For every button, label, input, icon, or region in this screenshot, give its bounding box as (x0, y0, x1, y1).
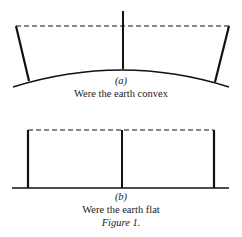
left-pole (16, 26, 29, 81)
panel-b-flat-earth (12, 130, 229, 188)
panel-b-label: (b) (0, 191, 242, 203)
panel-a-label: (a) (0, 75, 242, 87)
figure-title: Figure 1. (0, 217, 242, 229)
right-pole (215, 26, 229, 82)
panel-b-caption: Were the earth flat (0, 204, 242, 216)
panel-a-caption: Were the earth convex (0, 88, 242, 100)
